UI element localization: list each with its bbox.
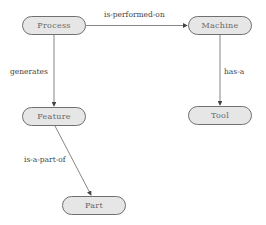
edge-label-generates: generates (10, 67, 48, 76)
node-process: Process (22, 16, 86, 35)
edge-label-is-performed-on: is-performed-on (104, 10, 165, 19)
node-machine: Machine (188, 16, 252, 35)
node-tool: Tool (188, 106, 252, 125)
node-part: Part (62, 196, 126, 215)
edge-label-has-a: has-a (224, 67, 244, 76)
edge-label-is-a-part-of: is-a-part-of (24, 155, 65, 164)
node-feature: Feature (22, 107, 86, 126)
